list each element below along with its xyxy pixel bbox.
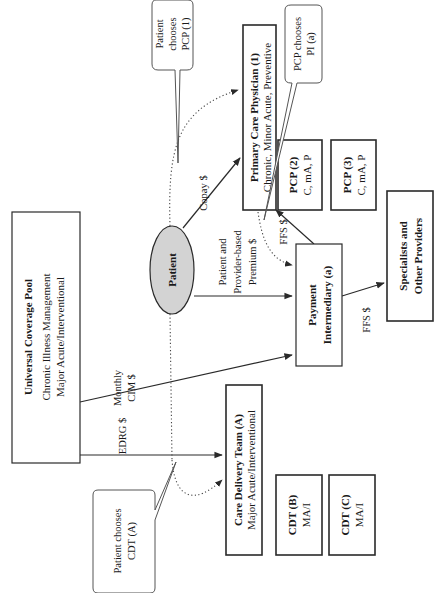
premium-label-line2: Provider-based bbox=[232, 230, 243, 294]
pcp1-line1: Chronic, Minor Acute, Preventive bbox=[261, 43, 273, 193]
pcp2-line1: C, mA, P bbox=[301, 155, 313, 196]
premium-label-line3: Premium $ bbox=[247, 239, 258, 285]
ffs-to-specialists-edge bbox=[342, 283, 384, 296]
cdt-b-line1: MA/I bbox=[300, 502, 312, 527]
premium-label-line1: Patient and bbox=[217, 238, 228, 286]
specialists-box bbox=[387, 191, 433, 321]
callout-cdt-line2: CDT (A) bbox=[126, 521, 138, 560]
pi-line1: Intermediary (a) bbox=[321, 265, 334, 344]
copay-label: Copay $ bbox=[198, 175, 209, 210]
callout-pcp-line2: chooses bbox=[167, 17, 178, 50]
pool-title: Universal Coverage Pool bbox=[22, 279, 34, 395]
payment-intermediary-box bbox=[296, 244, 342, 366]
cdt-b-box bbox=[276, 475, 322, 555]
payment-flow-diagram: Universal Coverage Pool Chronic Illness … bbox=[0, 0, 448, 593]
edrg-label: EDRG $ bbox=[117, 418, 128, 454]
callout-pi-line2: PI (a) bbox=[305, 32, 317, 56]
cdt-c-line1: MA/I bbox=[353, 502, 365, 527]
pcp3-line1: C, mA, P bbox=[355, 155, 367, 196]
cdt-c-title: CDT (C) bbox=[339, 494, 352, 535]
monthly-cim-label-line2: CIM $ bbox=[126, 374, 137, 402]
pcp2-box bbox=[278, 140, 322, 210]
pcp1-title: Primary Care Physician (1) bbox=[248, 53, 261, 182]
cdt-a-line1: Major Acute/Interventional bbox=[245, 410, 257, 530]
copay-edge bbox=[183, 158, 240, 228]
callout-pcp-line3: PCP (1) bbox=[180, 17, 192, 51]
callout-cdt-line1: Patient chooses bbox=[112, 508, 123, 573]
callout-pcp-line1: Patient bbox=[154, 19, 165, 48]
pcp3-title: PCP (3) bbox=[341, 156, 354, 193]
pi-title: Payment bbox=[306, 284, 318, 326]
pcp2-title: PCP (2) bbox=[287, 156, 300, 193]
patient-vertical-dotted-line bbox=[170, 314, 172, 460]
patient-label: Patient bbox=[166, 253, 178, 287]
cdt-a-title: Care Delivery Team (A) bbox=[232, 414, 245, 526]
monthly-cim-label-line1: Monthly bbox=[112, 369, 123, 406]
specialists-title: Specialists and bbox=[397, 221, 409, 290]
pool-line1: Chronic Illness Management bbox=[40, 273, 52, 400]
pool-line2: Major Acute/Interventional bbox=[54, 277, 66, 397]
callout-pi-line1: PCP chooses bbox=[292, 17, 303, 71]
pcp3-box bbox=[331, 140, 376, 210]
cdt-b-title: CDT (B) bbox=[286, 494, 299, 535]
ffs-specialists-label: FFS $ bbox=[361, 307, 372, 332]
specialists-line1: Other Providers bbox=[412, 217, 424, 294]
ffs-pcp-label: FFS $ bbox=[278, 219, 289, 244]
patient-chooses-cdt-path bbox=[172, 460, 222, 495]
cdt-c-box bbox=[329, 475, 375, 555]
